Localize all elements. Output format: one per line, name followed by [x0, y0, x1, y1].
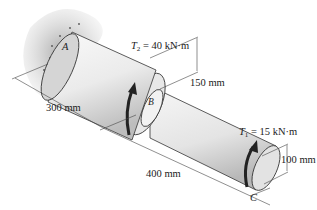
dim-300mm: 300 mm — [46, 103, 81, 114]
label-torque-t1: T1 = 15 kN·m — [239, 127, 297, 139]
label-torque-t2: T2 = 40 kN·m — [131, 41, 189, 53]
label-point-c: C — [250, 193, 257, 204]
dim-100mm: 100 mm — [281, 155, 316, 166]
dim-400mm: 400 mm — [146, 169, 181, 180]
shaft-diagram: A B C T2 = 40 kN·m T1 = 15 kN·m 300 mm 4… — [0, 0, 317, 210]
label-point-a: A — [62, 42, 68, 53]
label-point-b: B — [148, 98, 154, 108]
dim-150mm: 150 mm — [190, 78, 225, 89]
